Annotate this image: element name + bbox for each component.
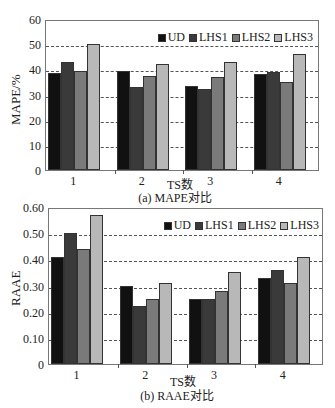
mape-bar-lhs1-3 (198, 89, 211, 170)
raae-x-tickmark (187, 364, 188, 368)
raae-x-tick-label: 4 (273, 369, 293, 381)
mape-bar-lhs1-4 (267, 72, 280, 170)
mape-legend-item-lhs1: LHS1 (189, 30, 228, 45)
raae-bar-ud-1 (51, 257, 64, 364)
mape-legend: UDLHS1LHS2LHS3 (158, 30, 313, 45)
legend-swatch-icon (189, 34, 197, 42)
legend-label: LHS2 (248, 218, 277, 233)
raae-x-tick-label: 1 (66, 369, 86, 381)
raae-bar-lhs3-1 (90, 215, 103, 364)
raae-chart: 00.100.200.300.400.500.60 1234 RAAE UDLH… (0, 200, 335, 408)
raae-y-tick-label: 0.40 (4, 254, 44, 266)
raae-legend-item-lhs3: LHS3 (280, 218, 319, 233)
raae-bar-ud-4 (258, 278, 271, 364)
raae-legend: UDLHS1LHS2LHS3 (164, 218, 319, 233)
mape-bar-lhs3-3 (224, 62, 237, 170)
mape-y-axis-label: MAPE/% (8, 74, 24, 125)
raae-bar-lhs2-2 (146, 299, 159, 364)
mape-bar-ud-2 (117, 71, 130, 170)
mape-bar-lhs1-2 (130, 87, 143, 170)
legend-label: LHS1 (199, 30, 228, 45)
raae-bar-ud-3 (189, 299, 202, 364)
raae-x-tickmark (118, 364, 119, 368)
mape-bar-lhs2-3 (211, 77, 224, 170)
raae-bar-lhs2-4 (284, 283, 297, 364)
mape-bar-lhs3-1 (87, 44, 100, 170)
legend-label: LHS3 (290, 218, 319, 233)
mape-bar-ud-3 (185, 86, 198, 170)
legend-label: UD (174, 218, 191, 233)
raae-bar-lhs1-3 (202, 299, 215, 364)
mape-x-tickmark (183, 170, 184, 174)
mape-bar-ud-1 (48, 73, 61, 170)
mape-x-tick-label: 1 (63, 175, 83, 187)
legend-swatch-icon (232, 34, 240, 42)
raae-y-tick-label: 0.20 (4, 307, 44, 319)
mape-bar-lhs3-2 (156, 64, 169, 170)
mape-bar-ud-4 (254, 74, 267, 170)
raae-legend-item-lhs1: LHS1 (195, 218, 234, 233)
mape-x-tickmark (252, 170, 253, 174)
legend-label: LHS3 (284, 30, 313, 45)
raae-x-tick-label: 2 (135, 369, 155, 381)
raae-y-tick-label: 0 (4, 359, 44, 371)
legend-swatch-icon (158, 34, 166, 42)
mape-x-tick-label: 2 (132, 175, 152, 187)
raae-bar-ud-2 (120, 286, 133, 365)
legend-label: LHS2 (242, 30, 271, 45)
mape-x-tick-label: 4 (269, 175, 289, 187)
raae-y-tick-label: 0.50 (4, 228, 44, 240)
raae-bar-lhs3-4 (297, 257, 310, 364)
legend-swatch-icon (195, 222, 203, 230)
mape-y-tick-label: 60 (1, 14, 41, 26)
mape-legend-item-lhs2: LHS2 (232, 30, 271, 45)
raae-bar-lhs1-1 (64, 233, 77, 364)
raae-x-tickmark (255, 364, 256, 368)
raae-caption: (b) RAAE对比 (112, 386, 242, 404)
legend-label: UD (168, 30, 185, 45)
mape-bar-lhs1-1 (61, 62, 74, 170)
raae-bar-lhs1-2 (133, 306, 146, 364)
raae-legend-item-lhs2: LHS2 (238, 218, 277, 233)
raae-y-tick-label: 0.10 (4, 333, 44, 345)
raae-bar-lhs2-1 (77, 249, 90, 364)
raae-x-tick-label: 3 (204, 369, 224, 381)
legend-swatch-icon (164, 222, 172, 230)
mape-bar-lhs2-2 (143, 76, 156, 170)
legend-swatch-icon (280, 222, 288, 230)
raae-bar-lhs1-4 (271, 270, 284, 364)
mape-legend-item-lhs3: LHS3 (274, 30, 313, 45)
mape-y-tick-label: 0 (1, 165, 41, 177)
legend-swatch-icon (274, 34, 282, 42)
raae-legend-item-ud: UD (164, 218, 191, 233)
raae-bar-lhs3-3 (228, 272, 241, 364)
mape-x-tick-label: 3 (200, 175, 220, 187)
raae-bar-lhs2-3 (215, 291, 228, 364)
mape-bar-lhs3-4 (293, 54, 306, 170)
mape-bar-lhs2-4 (280, 82, 293, 170)
mape-y-tick-label: 50 (1, 39, 41, 51)
raae-y-tick-label: 0.60 (4, 202, 44, 214)
mape-y-tick-label: 10 (1, 140, 41, 152)
mape-bar-lhs2-1 (74, 71, 87, 170)
legend-label: LHS1 (205, 218, 234, 233)
mape-legend-item-ud: UD (158, 30, 185, 45)
mape-chart: 0102030405060 1234 MAPE/% UDLHS1LHS2LHS3… (0, 0, 335, 200)
mape-x-tickmark (115, 170, 116, 174)
legend-swatch-icon (238, 222, 246, 230)
raae-y-axis-label: RAAE (8, 271, 24, 306)
raae-bar-lhs3-2 (159, 283, 172, 364)
